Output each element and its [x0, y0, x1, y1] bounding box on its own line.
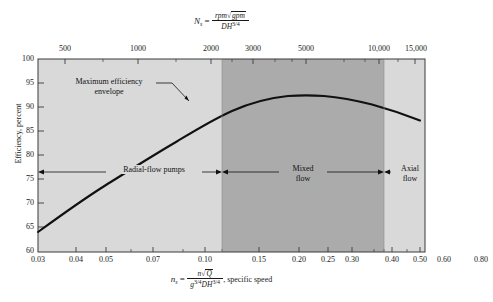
top-tick-label-1000: 1000: [120, 44, 156, 53]
bottom-axis-formula: ns = n√Q g3/4DH3/4 , specific speed: [0, 270, 443, 289]
bottom-tick-label-0-03: 0.03: [22, 255, 54, 264]
top-tick-label-500: 500: [49, 44, 81, 53]
top-tick-label-3000: 3000: [235, 44, 271, 53]
y-tick-label-65: 65: [12, 222, 34, 231]
bottom-formula-H-exp: 3/4: [212, 279, 220, 285]
axial-flow-zone-text-1: Axial: [401, 164, 419, 173]
bottom-tick-label-0-30: 0.30: [336, 255, 368, 264]
bottom-formula-g-exp: 3/4: [194, 279, 202, 285]
radial-flow-zone-label: Radial-flow pumps: [108, 165, 200, 175]
bottom-tick-label-0-10: 0.10: [189, 255, 221, 264]
bottom-formula-numerator: n√Q: [187, 269, 223, 279]
max-efficiency-envelope-label: Maximum efficiency envelope: [57, 77, 161, 97]
bottom-tick-label-0-20: 0.20: [283, 255, 315, 264]
top-tick-label-5000: 5000: [288, 44, 324, 53]
bottom-tick-label-0-07: 0.07: [137, 255, 169, 264]
max-efficiency-line-1: Maximum efficiency: [75, 77, 142, 86]
mixed-flow-zone-text-2: flow: [281, 174, 325, 184]
mixed-flow-band-fix: [222, 59, 384, 252]
axial-flow-zone-label: Axial flow: [392, 164, 428, 183]
bottom-formula-denominator: g3/4DH3/4: [187, 279, 223, 289]
axial-flow-band: [384, 59, 425, 252]
bottom-formula-fraction: n√Q g3/4DH3/4: [187, 269, 223, 288]
bottom-formula-equals: =: [180, 274, 185, 284]
bottom-formula-tail: , specific speed: [223, 275, 272, 284]
mixed-flow-zone-label: Mixed flow: [281, 164, 325, 183]
axial-flow-zone-text-2: flow: [392, 174, 428, 184]
bottom-tick-label-0-05: 0.05: [90, 255, 122, 264]
bottom-formula-Q: Q: [205, 269, 212, 278]
bottom-tick-label-0-60: 0.60: [428, 255, 460, 264]
y-tick-label-60: 60: [12, 246, 34, 255]
bottom-tick-label-0-15: 0.15: [243, 255, 275, 264]
top-tick-label-15000: 15,000: [394, 44, 438, 53]
top-tick-label-2000: 2000: [193, 44, 229, 53]
bottom-tick-label-0-04: 0.04: [60, 255, 92, 264]
radial-flow-zone-text: Radial-flow pumps: [121, 165, 187, 174]
y-axis-title: Efficiency, percent: [14, 74, 23, 194]
y-tick-label-100: 100: [12, 54, 34, 63]
bottom-formula-subscript: s: [175, 279, 177, 285]
y-tick-label-70: 70: [12, 198, 34, 207]
max-efficiency-line-2: envelope: [95, 87, 124, 96]
bottom-tick-label-0-80: 0.80: [465, 255, 493, 264]
mixed-flow-zone-text-1: Mixed: [291, 164, 316, 173]
